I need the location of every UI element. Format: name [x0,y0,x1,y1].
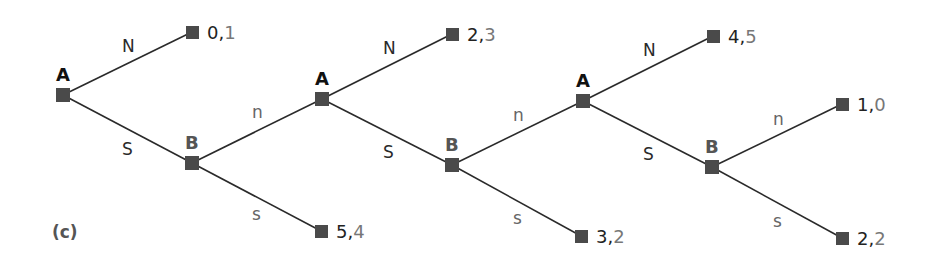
move-label-e3: n [252,104,263,121]
payoff-second: 3 [484,24,495,45]
decision-node-B1 [185,156,199,170]
move-label-e8: s [513,210,522,227]
payoff-first: 0, [207,22,224,43]
payoff-second: 2 [874,228,885,249]
player-label-B2: B [445,136,459,154]
payoff-first: 1, [857,94,874,115]
payoff-first: 3, [596,226,613,247]
move-label-e6: S [383,144,394,161]
move-label-e12: s [773,213,782,230]
payoff-T5: 4,5 [728,28,757,46]
move-label-e7: n [513,107,524,124]
terminal-node-T2 [315,225,328,238]
terminal-node-T5 [707,30,720,43]
move-label-e11: n [773,111,784,128]
payoff-first: 4, [728,26,745,47]
payoff-T6: 1,0 [857,96,886,114]
figure-caption: (c) [52,222,78,242]
payoff-second: 1 [224,22,235,43]
player-label-A2: A [315,70,329,88]
player-label-B1: B [185,134,199,152]
terminal-node-T7 [836,232,849,245]
player-label-A3: A [576,72,590,90]
move-label-e1: N [122,38,135,55]
decision-node-B2 [445,158,459,172]
payoff-T1: 0,1 [207,24,236,42]
terminal-node-T4 [575,230,588,243]
move-label-e10: S [643,146,654,163]
payoff-T4: 3,2 [596,228,625,246]
payoff-T7: 2,2 [857,230,886,248]
terminal-node-T1 [186,26,199,39]
player-label-A1: A [56,66,70,84]
move-label-e9: N [643,42,656,59]
payoff-second: 2 [613,226,624,247]
payoff-first: 5, [336,221,353,242]
payoff-first: 2, [467,24,484,45]
decision-node-A3 [576,94,590,108]
decision-node-A1 [56,88,70,102]
payoff-first: 2, [857,228,874,249]
payoff-second: 0 [874,94,885,115]
payoff-T3: 2,3 [467,26,496,44]
move-label-e2: S [122,141,133,158]
payoff-second: 5 [745,26,756,47]
move-label-e5: N [383,40,396,57]
decision-node-B3 [705,160,719,174]
move-label-e4: s [252,206,261,223]
terminal-node-T6 [836,98,849,111]
decision-node-A2 [315,92,329,106]
payoff-T2: 5,4 [336,223,365,241]
payoff-second: 4 [353,221,364,242]
player-label-B3: B [705,138,719,156]
terminal-node-T3 [446,28,459,41]
